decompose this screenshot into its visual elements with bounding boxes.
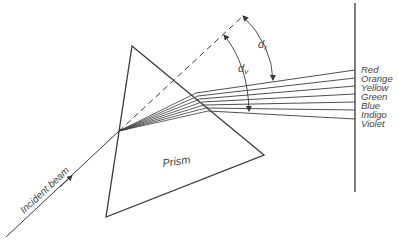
undeviated-path-dashed-line (119, 16, 243, 131)
internal-rays (119, 93, 208, 131)
prism-label: Prism (162, 153, 192, 169)
prism-dispersion-diagram: dr dv Prism Incident beam Red Orange Yel… (0, 0, 399, 242)
color-label-violet: Violet (361, 118, 385, 129)
emergent-rays (196, 70, 355, 119)
deviation-violet-label: dv (238, 62, 249, 76)
deviation-red-label: dr (258, 38, 267, 52)
incident-beam-label: Incident beam (18, 165, 71, 216)
